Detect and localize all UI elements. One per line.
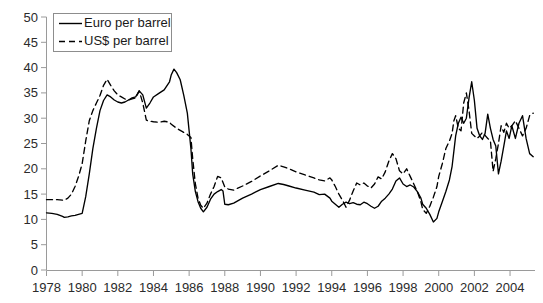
series-group (47, 69, 534, 222)
x-tick-label: 1978 (32, 280, 61, 295)
y-tick-label: 20 (24, 161, 38, 176)
x-tick-label: 1992 (282, 280, 311, 295)
y-tick-label: 35 (24, 85, 38, 100)
y-tick-label: 25 (24, 136, 38, 151)
x-tick-label: 1986 (175, 280, 204, 295)
y-tick-label: 40 (24, 60, 38, 75)
x-tick-label: 2004 (496, 280, 525, 295)
y-tick-label: 15 (24, 187, 38, 202)
y-tick-label: 45 (24, 35, 38, 50)
legend-label-euro: Euro per barrel (84, 15, 171, 30)
x-tick-label: 2002 (460, 280, 489, 295)
x-tick-label: 1994 (317, 280, 346, 295)
chart-canvas: 05101520253035404550 1978198019821984198… (0, 0, 543, 303)
x-tick-label: 2000 (424, 280, 453, 295)
y-axis-ticks: 05101520253035404550 (24, 10, 47, 278)
x-tick-label: 1998 (389, 280, 418, 295)
y-tick-label: 0 (31, 263, 38, 278)
axes (47, 17, 536, 271)
y-tick-label: 5 (31, 237, 38, 252)
series-path-euro-per-barrel (47, 69, 534, 222)
y-tick-label: 30 (24, 111, 38, 126)
x-tick-label: 1982 (103, 280, 132, 295)
x-tick-label: 1988 (210, 280, 239, 295)
chart-legend: Euro per barrel US$ per barrel (54, 14, 172, 52)
y-tick-label: 50 (24, 10, 38, 25)
x-tick-label: 1984 (139, 280, 168, 295)
x-tick-label: 1996 (353, 280, 382, 295)
x-axis-ticks: 1978198019821984198619881990199219941996… (32, 271, 524, 296)
oil-price-chart: 05101520253035404550 1978198019821984198… (0, 0, 543, 303)
x-tick-label: 1980 (68, 280, 97, 295)
y-tick-label: 10 (24, 212, 38, 227)
x-tick-label: 1990 (246, 280, 275, 295)
series-path-us-per-barrel (47, 79, 534, 213)
legend-label-usd: US$ per barrel (84, 33, 169, 48)
